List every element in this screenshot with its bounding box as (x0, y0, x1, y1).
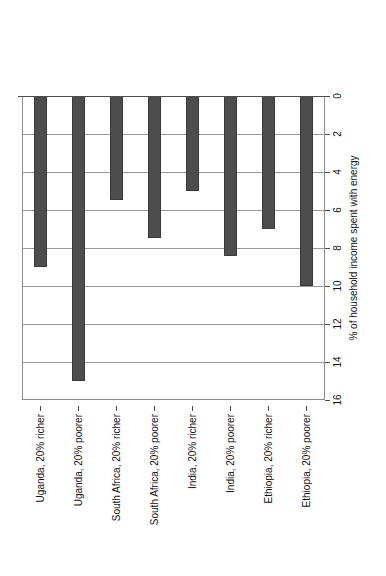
category-tick (78, 406, 79, 411)
category-label-slot: Ethiopia, 20% poorer (287, 406, 325, 576)
bar[interactable] (262, 96, 275, 229)
axis-tick-label: 16 (332, 394, 343, 405)
value-axis-title: % of household income spent with energy (348, 96, 359, 400)
axis-tick (325, 400, 330, 401)
bar-slot (249, 96, 287, 400)
axis-tick (325, 172, 330, 173)
category-label: Uganda, 20% richer (35, 414, 46, 502)
category-tick (268, 406, 269, 411)
bar[interactable] (224, 96, 237, 256)
bar-slot (287, 96, 325, 400)
category-tick (40, 406, 41, 411)
bars-container (22, 96, 325, 400)
bar-slot (174, 96, 212, 400)
category-label: Ethiopia, 20% richer (263, 414, 274, 504)
plot-area (22, 96, 325, 400)
axis-tick (325, 286, 330, 287)
bar-chart-figure: Uganda, 20% richerUganda, 20% poorerSout… (0, 0, 386, 576)
axis-tick (325, 210, 330, 211)
bar[interactable] (148, 96, 161, 239)
category-label: Uganda, 20% poorer (73, 414, 84, 506)
axis-tick (325, 362, 330, 363)
bar-slot (211, 96, 249, 400)
bar[interactable] (300, 96, 313, 286)
category-tick (306, 406, 307, 411)
bar[interactable] (34, 96, 47, 267)
axis-tick (325, 248, 330, 249)
category-label-slot: India, 20% poorer (211, 406, 249, 576)
bar-slot (60, 96, 98, 400)
axis-tick (325, 324, 330, 325)
bar-slot (22, 96, 60, 400)
axis-tick-label: 0 (332, 93, 343, 99)
category-label-slot: Uganda, 20% poorer (60, 406, 98, 576)
bar-slot (98, 96, 136, 400)
category-label-slot: Ethiopia, 20% richer (249, 406, 287, 576)
category-label: South Africa, 20% richer (111, 414, 122, 521)
axis-tick-label: 4 (332, 169, 343, 175)
bar[interactable] (186, 96, 199, 191)
bar[interactable] (110, 96, 123, 201)
category-tick (230, 406, 231, 411)
axis-tick-label: 2 (332, 131, 343, 137)
category-label-slot: South Africa, 20% richer (98, 406, 136, 576)
chart-figure-rotator: Uganda, 20% richerUganda, 20% poorerSout… (0, 0, 386, 576)
category-axis-labels: Uganda, 20% richerUganda, 20% poorerSout… (22, 406, 325, 576)
axis-tick-label: 6 (332, 207, 343, 213)
value-axis-ticks: 0246810121416 (325, 96, 365, 400)
category-label: South Africa, 20% poorer (149, 414, 160, 525)
axis-tick-label: 10 (332, 280, 343, 291)
axis-tick-label: 12 (332, 318, 343, 329)
category-tick (192, 406, 193, 411)
axis-tick (325, 134, 330, 135)
axis-tick-label: 14 (332, 356, 343, 367)
axis-tick (325, 96, 330, 97)
category-tick (116, 406, 117, 411)
category-label-slot: Uganda, 20% richer (22, 406, 60, 576)
category-label: India, 20% richer (187, 414, 198, 489)
category-label: India, 20% poorer (225, 414, 236, 493)
category-label: Ethiopia, 20% poorer (301, 414, 312, 507)
category-tick (154, 406, 155, 411)
bar[interactable] (72, 96, 85, 381)
category-label-slot: South Africa, 20% poorer (136, 406, 174, 576)
category-label-slot: India, 20% richer (174, 406, 212, 576)
bar-slot (136, 96, 174, 400)
axis-tick-label: 8 (332, 245, 343, 251)
value-axis-line (18, 96, 329, 97)
